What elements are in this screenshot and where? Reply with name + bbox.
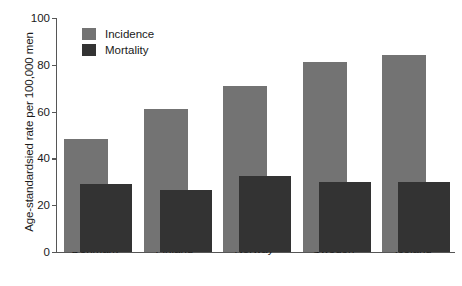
chart-legend: IncidenceMortality [82,26,154,58]
y-tick-mark [52,158,57,159]
legend-item: Incidence [82,26,154,41]
y-tick-label: 40 [37,152,50,164]
bar-chart-figure: Age-standardsied rate per 100,000 men 02… [0,0,462,286]
y-tick-label: 20 [37,199,50,211]
y-tick-label: 100 [31,12,50,24]
legend-label: Mortality [105,44,148,56]
y-tick-mark [52,112,57,113]
bar-mortality [160,190,212,252]
y-axis-line [56,18,57,252]
y-tick-mark [52,65,57,66]
y-tick-label: 60 [37,106,50,118]
y-tick-mark [52,205,57,206]
legend-label: Incidence [105,28,154,40]
y-tick-label: 0 [44,246,50,258]
y-tick-label: 80 [37,59,50,71]
y-tick-mark [52,252,57,253]
bar-mortality [239,176,291,252]
y-tick-mark [52,18,57,19]
bar-mortality [398,182,450,252]
bar-mortality [80,184,132,252]
legend-item: Mortality [82,42,154,57]
bar-mortality [319,182,371,252]
legend-swatch [82,28,96,40]
y-axis-title: Age-standardsied rate per 100,000 men [20,12,38,252]
legend-swatch [82,44,96,56]
